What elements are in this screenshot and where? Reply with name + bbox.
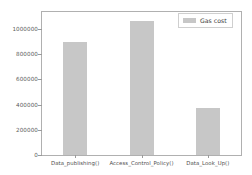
bar-data_look_up [196, 108, 220, 155]
y-tick-label: 400000 [16, 102, 38, 108]
x-tick-mark [75, 155, 76, 158]
y-tick-mark [38, 155, 42, 156]
y-tick-label: 1000000 [12, 26, 38, 32]
bar-data_publishing [63, 42, 87, 155]
chart-figure: 02000004000006000008000001000000 Data_pu… [0, 0, 252, 175]
y-tick-label: 800000 [16, 51, 38, 57]
bars-layer [42, 12, 241, 155]
x-tick-mark [142, 155, 143, 158]
chart-legend: Gas cost [178, 13, 233, 28]
x-tick-mark [208, 155, 209, 158]
y-tick-label: 200000 [16, 127, 38, 133]
bar-access_control_policy [130, 21, 154, 155]
legend-label-gas-cost: Gas cost [200, 17, 227, 24]
plot-area: 02000004000006000008000001000000 Data_pu… [41, 11, 242, 156]
y-tick-label: 600000 [16, 76, 38, 82]
legend-swatch-gas-cost [183, 18, 196, 23]
x-tick-label: Data_publishing() [51, 160, 99, 166]
x-tick-label: Access_Control_Policy() [109, 160, 173, 166]
x-tick-label: Data_Look_Up() [186, 160, 229, 166]
y-tick-label: 0 [34, 152, 38, 158]
